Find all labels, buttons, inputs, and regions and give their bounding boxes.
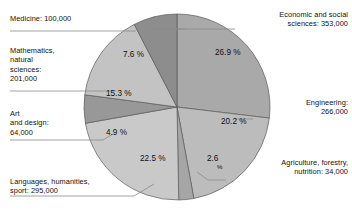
slice-percent-label: 7.6 % <box>123 50 144 59</box>
slice-percent-label: 15.3 % <box>106 89 132 98</box>
slice-percent-suffix: % <box>217 163 223 170</box>
slice-percent-label: 20.2 % <box>221 117 247 126</box>
callout-label: Economic and social sciences: 353,000 <box>240 10 348 29</box>
pie-slice[interactable] <box>177 14 270 118</box>
slice-percent-label: 22.5 % <box>140 154 166 163</box>
callout-label: Languages, humanities, sport: 295,000 <box>10 177 140 196</box>
pie-chart-figure: 26.9 %20.2 %2.6%22.5 %4.9 %15.3 %7.6 % E… <box>0 0 352 212</box>
slice-percent-label: 2.6 <box>207 154 219 163</box>
callout-label: Agriculture, forestry, nutrition: 34,000 <box>231 158 348 177</box>
callout-label: Medicine: 100,000 <box>10 14 130 23</box>
callout-label: Engineering: 266,000 <box>258 98 348 117</box>
slice-percent-label: 26.9 % <box>215 48 241 57</box>
callout-label: Art and design: 64,000 <box>10 109 110 137</box>
callout-label: Mathematics, natural sciences: 201,000 <box>10 46 110 83</box>
